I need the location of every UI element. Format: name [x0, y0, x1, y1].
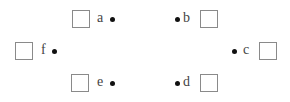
checkbox-e[interactable]: [71, 74, 89, 92]
label-f: f: [41, 43, 46, 57]
label-a: a: [97, 11, 103, 25]
connector-dot-f[interactable]: [52, 49, 57, 54]
connector-dot-d[interactable]: [175, 81, 180, 86]
label-c: c: [243, 43, 249, 57]
checkbox-c[interactable]: [259, 42, 277, 60]
connector-dot-c[interactable]: [232, 49, 237, 54]
checkbox-f[interactable]: [15, 42, 33, 60]
checkbox-a[interactable]: [72, 10, 90, 28]
label-d: d: [183, 75, 190, 89]
connector-dot-e[interactable]: [110, 81, 115, 86]
checkbox-b[interactable]: [200, 10, 218, 28]
connector-dot-b[interactable]: [175, 17, 180, 22]
label-e: e: [97, 75, 103, 89]
checkbox-d[interactable]: [200, 74, 218, 92]
connector-dot-a[interactable]: [110, 17, 115, 22]
label-b: b: [183, 11, 190, 25]
